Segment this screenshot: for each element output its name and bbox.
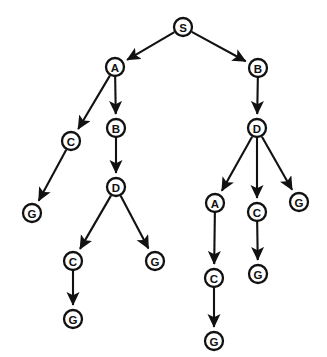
tree-node-c[interactable]: C xyxy=(248,203,266,221)
node-label: G xyxy=(295,197,304,209)
node-label: D xyxy=(112,182,120,194)
tree-node-b[interactable]: B xyxy=(249,59,267,77)
search-tree-diagram: SABCBDGDACGCGCGGG xyxy=(0,0,327,357)
tree-node-s[interactable]: S xyxy=(174,18,192,36)
tree-node-g[interactable]: G xyxy=(290,193,308,211)
tree-edge-d-to-c xyxy=(80,196,111,249)
node-label: B xyxy=(254,63,262,75)
tree-node-c[interactable]: C xyxy=(64,252,82,270)
node-label: C xyxy=(69,256,77,268)
tree-canvas: SABCBDGDACGCGCGGG xyxy=(0,0,327,357)
node-label: C xyxy=(253,207,261,219)
tree-edge-c-to-g xyxy=(257,222,258,260)
node-label: C xyxy=(67,136,75,148)
tree-edge-d-to-a xyxy=(222,137,252,191)
tree-node-d[interactable]: D xyxy=(248,119,266,137)
tree-edge-d-to-g xyxy=(121,196,149,249)
tree-node-c[interactable]: C xyxy=(62,132,80,150)
tree-node-a[interactable]: A xyxy=(106,58,124,76)
tree-node-g[interactable]: G xyxy=(64,310,82,328)
tree-node-g[interactable]: G xyxy=(23,204,41,222)
tree-node-g[interactable]: G xyxy=(249,265,267,283)
node-label: B xyxy=(112,123,120,135)
nodes-layer: SABCBDGDACGCGCGGG xyxy=(23,18,308,350)
tree-edge-c-to-g xyxy=(39,150,67,201)
node-label: C xyxy=(210,273,218,285)
tree-edge-b-to-d xyxy=(257,78,258,114)
tree-node-c[interactable]: C xyxy=(205,269,223,287)
tree-node-g[interactable]: G xyxy=(146,252,164,270)
tree-node-a[interactable]: A xyxy=(206,194,224,212)
tree-node-b[interactable]: B xyxy=(107,119,125,137)
node-label: A xyxy=(111,62,119,74)
tree-node-d[interactable]: D xyxy=(107,178,125,196)
node-label: D xyxy=(253,123,261,135)
node-label: G xyxy=(28,208,37,220)
tree-edge-s-to-b xyxy=(192,32,246,61)
node-label: S xyxy=(179,22,187,34)
node-label: G xyxy=(69,314,78,326)
tree-node-g[interactable]: G xyxy=(205,332,223,350)
tree-edge-s-to-a xyxy=(127,32,174,60)
node-label: A xyxy=(211,198,219,210)
node-label: G xyxy=(151,256,160,268)
node-label: G xyxy=(254,269,263,281)
tree-edge-a-to-b xyxy=(115,77,116,114)
tree-edge-d-to-g xyxy=(262,137,292,190)
tree-edge-a-to-c xyxy=(78,76,110,129)
tree-edge-a-to-c xyxy=(214,213,215,264)
node-label: G xyxy=(210,336,219,348)
